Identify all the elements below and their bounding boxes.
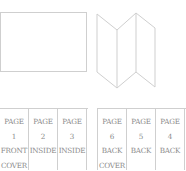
panel-column-page-6: PAGE 6 BACK COVER xyxy=(98,109,127,170)
page-label: PAGE xyxy=(160,115,180,130)
panel-extra: COVER xyxy=(99,159,125,171)
page-number: 3 xyxy=(70,130,74,145)
panel-side: BACK xyxy=(131,144,152,159)
page-number: 5 xyxy=(139,130,143,145)
panel-column-page-1: PAGE 1 FRONT COVER xyxy=(0,109,29,170)
page-number: 6 xyxy=(110,130,114,145)
panel-column-page-4: PAGE 4 BACK xyxy=(156,109,185,170)
panel-column-page-3: PAGE 3 INSIDE xyxy=(58,109,87,170)
page-label: PAGE xyxy=(4,115,24,130)
page-number: 1 xyxy=(12,130,16,145)
page-label: PAGE xyxy=(131,115,151,130)
back-side-panel-table: PAGE 6 BACK COVER PAGE 5 BACK PAGE 4 BAC… xyxy=(97,108,186,170)
panel-side: INSIDE xyxy=(59,144,86,159)
page-label: PAGE xyxy=(33,115,53,130)
panel-column-page-5: PAGE 5 BACK xyxy=(127,109,156,170)
panel-side: INSIDE xyxy=(30,144,57,159)
folded-brochure-illustration xyxy=(0,0,186,100)
page-number: 2 xyxy=(41,130,45,145)
panel-column-page-2: PAGE 2 INSIDE xyxy=(29,109,58,170)
panel-side: FRONT xyxy=(1,144,27,159)
page-number: 4 xyxy=(168,130,172,145)
page-label: PAGE xyxy=(62,115,82,130)
page-label: PAGE xyxy=(102,115,122,130)
panel-side: BACK xyxy=(160,144,181,159)
panel-extra: COVER xyxy=(1,159,27,171)
front-side-panel-table: PAGE 1 FRONT COVER PAGE 2 INSIDE PAGE 3 … xyxy=(0,108,88,170)
panel-side: BACK xyxy=(102,144,123,159)
